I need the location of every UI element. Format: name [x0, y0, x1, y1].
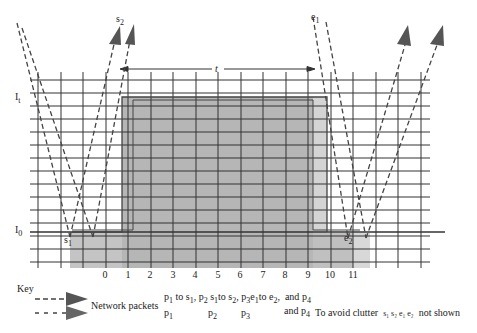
label-s2: s2: [116, 14, 124, 28]
tick-5: 5: [208, 269, 228, 280]
arrowhead-p3-right: [397, 25, 411, 46]
label-e1: e1: [311, 12, 319, 26]
label-i-t: It: [15, 92, 21, 106]
key-row-2-p3: p3: [241, 308, 250, 322]
label-i-0: I0: [15, 225, 22, 239]
key-network-packets-label: Network packets: [91, 301, 158, 311]
packet-rays-right: [313, 17, 437, 238]
label-t: t: [215, 64, 218, 74]
tick-6: 6: [230, 269, 250, 280]
tick-4: 4: [185, 269, 205, 280]
network-packet-timing-diagram: It I0 t s2 s1 e1 e2 0 1 2 3 4 5 6 7 8 9 …: [0, 0, 477, 333]
key-arrow-1: [35, 292, 88, 306]
arrowhead-p4-right: [430, 25, 444, 46]
tick-11: 11: [343, 269, 363, 280]
tick-10: 10: [320, 269, 340, 280]
diagram-canvas: [0, 0, 477, 333]
tick-2: 2: [140, 269, 160, 280]
key-arrow-2: [35, 306, 88, 320]
arrowhead-p2-left: [125, 24, 135, 45]
key-row-2-and-p4: and p4: [284, 306, 310, 320]
shade-light-left: [70, 233, 122, 268]
tick-8: 8: [275, 269, 295, 280]
key-row-2-p2: p2: [208, 308, 217, 322]
tick-1: 1: [118, 269, 138, 280]
key-row-2-note: To avoid clutter s₁ s₂ e₁ e₂ not shown: [315, 308, 460, 319]
label-e2: e2: [344, 233, 352, 247]
key-row-2-p1: p1: [164, 308, 173, 322]
tick-7: 7: [253, 269, 273, 280]
tick-3: 3: [163, 269, 183, 280]
tick-9: 9: [298, 269, 318, 280]
shade-right-light: [313, 97, 327, 233]
tick-0: 0: [95, 269, 115, 280]
packet-rays-left: [17, 23, 130, 237]
label-s1: s1: [64, 235, 72, 249]
key-row-1: p1 to s1, p2 s1to s2, p3e1to e2, and p4: [164, 292, 311, 306]
key-title: Key: [17, 284, 34, 294]
arrowhead-p1-left: [109, 26, 121, 45]
